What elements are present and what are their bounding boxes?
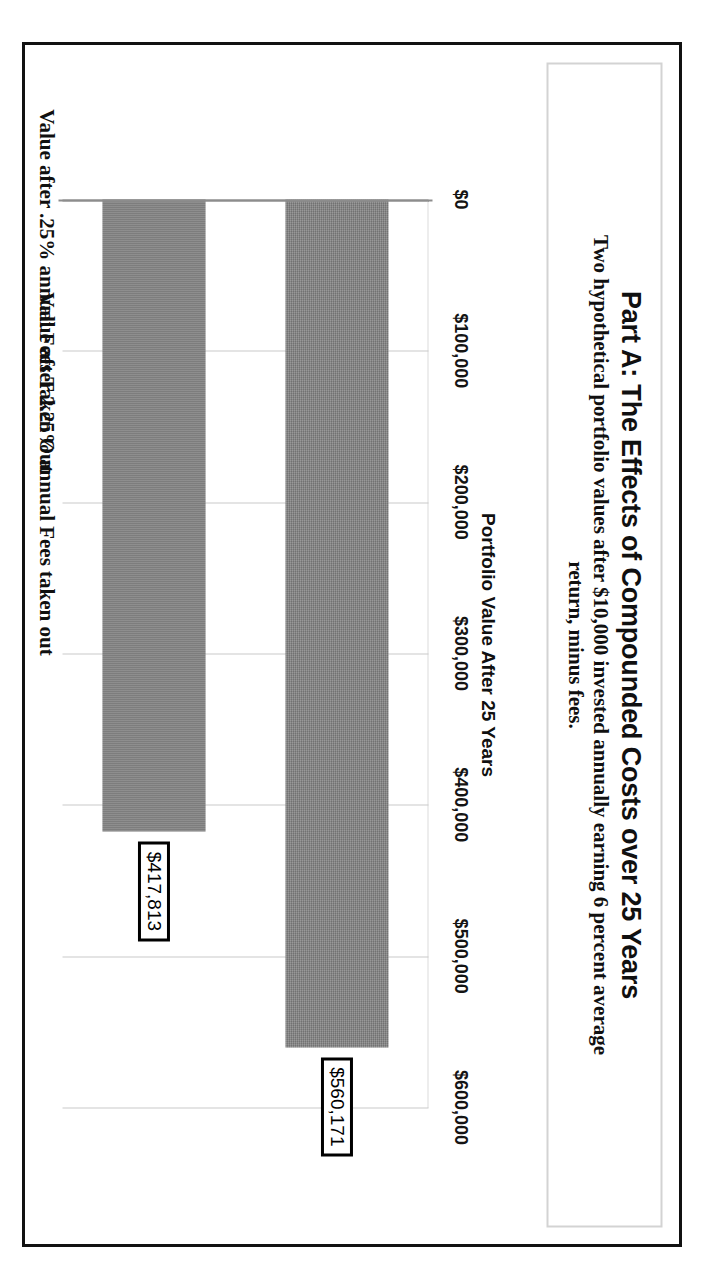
chart-title: Part A: The Effects of Compounded Costs … <box>615 290 645 998</box>
value-axis-tick-labels: $0$100,000$200,000$300,000$400,000$500,0… <box>434 48 470 1241</box>
chart-canvas: Part A: The Effects of Compounded Costs … <box>28 48 676 1241</box>
bar-value-label: $560,171 <box>320 1057 353 1156</box>
chart-rotator: Part A: The Effects of Compounded Costs … <box>28 48 676 1241</box>
tick-label: $600,000 <box>449 1069 470 1144</box>
category-axis-line <box>62 199 428 201</box>
tick-label: $100,000 <box>449 313 470 388</box>
category-label: Value after 2.25% annual Fees taken out <box>33 292 58 655</box>
category-axis-labels: Value after .25% annual Fees Taken OutVa… <box>28 199 58 1107</box>
tick-label: $300,000 <box>449 615 470 690</box>
tick-label: $200,000 <box>449 464 470 539</box>
bar[interactable] <box>285 199 388 1047</box>
figure-frame: Part A: The Effects of Compounded Costs … <box>22 42 682 1247</box>
tick-label: $400,000 <box>449 767 470 842</box>
value-axis-title: Portfolio Value After 25 Years <box>476 48 498 1241</box>
bar-track: $417,813 <box>102 199 205 1107</box>
tick-label: $0 <box>449 189 470 209</box>
bar[interactable] <box>102 199 205 831</box>
plot-area: $560,171$417,813 <box>62 199 428 1107</box>
bar-track: $560,171 <box>285 199 388 1107</box>
tick-label: $500,000 <box>449 918 470 993</box>
chart-subtitle: Two hypothetical portfolio values after … <box>563 205 613 1085</box>
chart-title-box: Part A: The Effects of Compounded Costs … <box>546 62 662 1227</box>
bar-value-label: $417,813 <box>137 841 170 940</box>
